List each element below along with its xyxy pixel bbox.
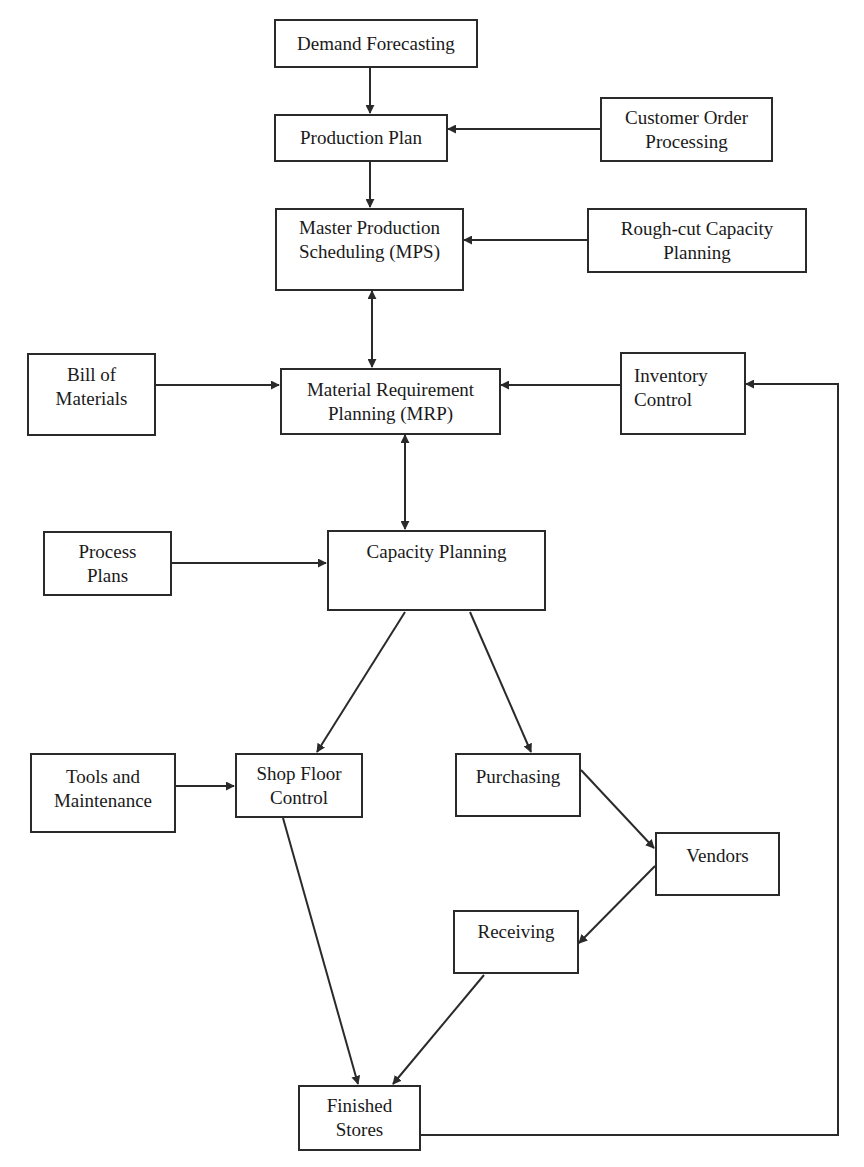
- node-label: Stores: [336, 1118, 384, 1142]
- node-label: Inventory: [634, 364, 708, 388]
- node-receiving: Receiving: [453, 910, 579, 974]
- node-process-plans: Process Plans: [43, 531, 172, 596]
- node-tools-and-maintenance: Tools and Maintenance: [30, 753, 176, 833]
- node-label: Receiving: [477, 920, 554, 944]
- node-label: Planning: [663, 241, 731, 265]
- node-label: Materials: [56, 387, 128, 411]
- node-inventory-control: Inventory Control: [620, 352, 746, 435]
- node-label: Rough-cut Capacity: [621, 217, 774, 241]
- edge-capacity-to-shop-floor: [317, 612, 405, 752]
- node-rough-cut-capacity-planning: Rough-cut Capacity Planning: [587, 208, 807, 273]
- node-label: Production Plan: [300, 126, 422, 150]
- edge-shop-floor-to-finished: [283, 818, 358, 1084]
- node-label: Control: [634, 388, 692, 412]
- edge-receiving-to-finished: [393, 975, 484, 1084]
- node-purchasing: Purchasing: [455, 753, 581, 817]
- node-label: Bill of: [67, 363, 116, 387]
- node-label: Scheduling (MPS): [299, 240, 440, 264]
- node-material-requirement-planning: Material Requirement Planning (MRP): [280, 368, 501, 435]
- node-label: Vendors: [686, 844, 748, 868]
- node-shop-floor-control: Shop Floor Control: [235, 753, 363, 818]
- mrp-flowchart: Demand Forecasting Production Plan Custo…: [0, 0, 864, 1167]
- node-capacity-planning: Capacity Planning: [327, 530, 546, 611]
- node-label: Maintenance: [54, 789, 152, 813]
- node-label: Tools and: [66, 765, 140, 789]
- node-label: Finished: [327, 1094, 392, 1118]
- node-demand-forecasting: Demand Forecasting: [274, 19, 478, 68]
- node-label: Master Production: [299, 216, 440, 240]
- node-finished-stores: Finished Stores: [298, 1085, 421, 1151]
- node-vendors: Vendors: [655, 832, 780, 896]
- node-label: Control: [270, 786, 328, 810]
- edge-capacity-to-purchasing: [470, 612, 531, 752]
- node-master-production-scheduling: Master Production Scheduling (MPS): [275, 208, 464, 291]
- node-label: Process: [78, 540, 136, 564]
- node-label: Demand Forecasting: [297, 32, 455, 56]
- node-bill-of-materials: Bill of Materials: [27, 353, 156, 436]
- edge-vendors-to-receiving: [579, 866, 655, 943]
- node-customer-order-processing: Customer Order Processing: [600, 97, 773, 162]
- node-label: Customer Order: [625, 106, 748, 130]
- node-label: Purchasing: [476, 765, 560, 789]
- node-label: Plans: [87, 564, 128, 588]
- node-production-plan: Production Plan: [274, 114, 448, 162]
- node-label: Shop Floor: [257, 762, 342, 786]
- node-label: Processing: [645, 130, 727, 154]
- node-label: Planning (MRP): [328, 402, 453, 426]
- node-label: Material Requirement: [307, 378, 474, 402]
- edge-purchasing-to-vendors: [581, 770, 654, 848]
- node-label: Capacity Planning: [367, 540, 507, 564]
